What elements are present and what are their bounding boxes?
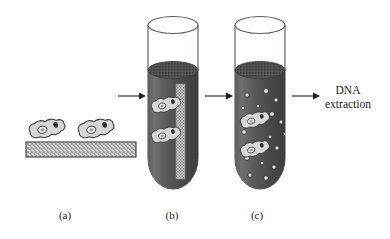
substrate-fragment xyxy=(264,89,269,94)
substrate-fragment xyxy=(270,112,275,117)
substrate-fragment xyxy=(275,146,279,150)
substrate-fragment xyxy=(242,130,246,134)
substrate-fragment xyxy=(256,104,259,107)
substrate-fragment xyxy=(268,135,272,139)
tube-b-liquid xyxy=(147,70,199,195)
substrate-fragment xyxy=(279,120,283,124)
dna-extraction-line1: DNA xyxy=(336,84,362,96)
substrate-fragment xyxy=(248,173,252,177)
substrate-fragment xyxy=(264,176,268,180)
tube-c-rim xyxy=(235,17,285,34)
substrate-fragment xyxy=(245,93,249,97)
figure-container: (a) xyxy=(0,0,390,239)
substrate-fragment xyxy=(272,165,276,169)
tube-c-liquid xyxy=(234,70,287,195)
substrate-fragment xyxy=(274,98,278,102)
substrate-fragment xyxy=(260,161,264,165)
panel-label-c: (c) xyxy=(251,209,264,222)
dna-extraction-line2: extraction xyxy=(325,98,371,110)
tube-c-meniscus xyxy=(235,62,285,79)
hatched-substrate-bar xyxy=(26,142,136,157)
tube-b-rim xyxy=(148,17,198,34)
tube-b-meniscus xyxy=(148,62,198,79)
substrate-fragment xyxy=(241,106,244,109)
diagram-canvas: (a) xyxy=(0,0,390,239)
panel-label-b: (b) xyxy=(166,209,179,222)
panel-label-a: (a) xyxy=(59,209,72,222)
